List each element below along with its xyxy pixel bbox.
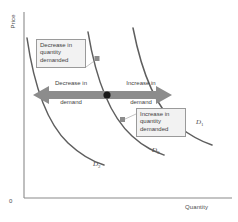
origin-label: 0: [9, 198, 12, 205]
increase-in-demand-label-line1: Increase in: [112, 80, 170, 88]
callout-increase-quantity-demanded: Increase in quantity demanded: [136, 108, 186, 137]
callout-increase-qd-line2: quantity: [140, 118, 182, 125]
curve-markers: [95, 56, 126, 122]
increase-in-demand-label-line2: demand: [112, 99, 170, 107]
curve-label-d1-subscript: 1: [201, 122, 204, 127]
callout-decrease-qd-line3: demanded: [40, 57, 82, 64]
callout-decrease-qd-line2: quantity: [40, 49, 82, 56]
callout-leader-lines: [86, 59, 136, 120]
callout-decrease-quantity-demanded: Decrease in quantity demanded: [36, 39, 86, 68]
demand-shift-diagram: Price Quantity 0 D2 D0 D1 Decrease in de…: [0, 0, 238, 222]
callout-increase-qd-line1: Increase in: [140, 111, 182, 118]
decrease-in-demand-label-line2: demand: [40, 99, 102, 107]
curve-label-d0-subscript: 0: [157, 150, 160, 155]
y-axis-label: Price: [10, 5, 17, 39]
curve-label-d2-subscript: 2: [98, 164, 101, 169]
callout-decrease-qd-line1: Decrease in: [40, 42, 82, 49]
curve-label-d0: D0: [152, 146, 160, 155]
decrease-in-demand-label-line1: Decrease in: [40, 80, 102, 88]
marker-upper-square: [95, 56, 100, 61]
plot-canvas: [0, 0, 238, 222]
marker-center-point: [103, 91, 110, 98]
marker-lower-square: [120, 117, 125, 122]
x-axis-label: Quantity: [185, 204, 208, 211]
curve-label-d2: D2: [93, 160, 101, 169]
callout-increase-qd-line3: demanded: [140, 126, 182, 133]
curve-label-d1: D1: [196, 118, 204, 127]
